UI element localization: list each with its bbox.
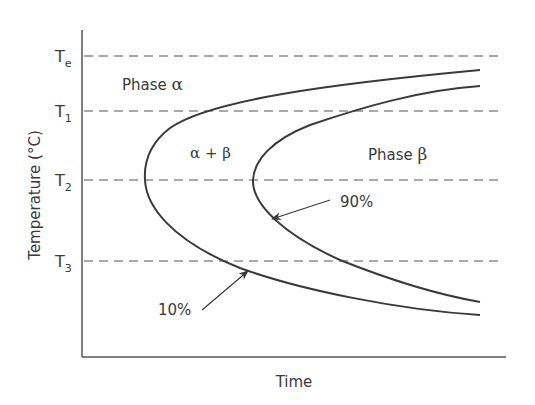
- label-90-percent: 90%: [340, 193, 373, 211]
- x-axis-label: Time: [275, 373, 313, 391]
- transformation-curves: [145, 70, 480, 315]
- arrow-10-icon: [202, 271, 248, 310]
- tick-t3: T3: [54, 252, 72, 275]
- annotation-90: 90%: [272, 193, 373, 219]
- label-10-percent: 10%: [158, 301, 191, 319]
- annotation-10: 10%: [158, 271, 248, 319]
- curve-10-percent: [145, 70, 480, 315]
- arrow-90-icon: [272, 200, 330, 219]
- tick-t2: T2: [54, 171, 72, 194]
- ttt-diagram: Te T1 T2 T3 Temperature (°C) Time Phase …: [0, 0, 535, 405]
- region-alpha-plus-beta: α + β: [190, 144, 231, 162]
- tick-t1: T1: [54, 102, 72, 125]
- region-phase-alpha: Phase α: [122, 74, 184, 94]
- y-axis-label: Temperature (°C): [26, 130, 44, 260]
- region-phase-beta: Phase β: [368, 144, 427, 164]
- tick-te: Te: [54, 47, 72, 70]
- y-tick-labels: Te T1 T2 T3: [54, 47, 72, 275]
